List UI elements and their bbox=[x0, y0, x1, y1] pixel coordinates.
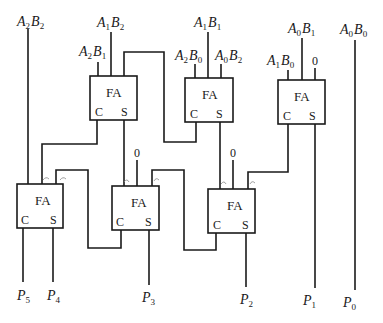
fa-bottom-middle: FA C S bbox=[112, 186, 159, 230]
input-label-a1b0: A1B0 bbox=[266, 53, 295, 70]
sum-port-label: S bbox=[242, 218, 249, 232]
pencil-mark bbox=[43, 178, 49, 180]
sum-port-label: S bbox=[121, 105, 128, 119]
input-label-a2b1: A2B1 bbox=[78, 44, 106, 61]
pencil-marks bbox=[43, 178, 255, 184]
output-label-p5: P5 bbox=[16, 288, 31, 305]
fa-bottom-left: FA C S bbox=[17, 184, 63, 228]
carry-port-label: C bbox=[21, 213, 29, 227]
fa-top-right: FA C S bbox=[278, 80, 325, 124]
input-label-a0b1: A0B1 bbox=[287, 21, 315, 38]
input-label-a1b1: A1B1 bbox=[193, 15, 221, 32]
carry-port-label: C bbox=[283, 109, 291, 123]
carry-port-label: C bbox=[95, 105, 103, 119]
carry-port-label: C bbox=[190, 107, 198, 121]
zero-input-bottom-middle: 0 bbox=[134, 146, 140, 160]
fa-top-left: FA C S bbox=[90, 76, 137, 120]
fa-label: FA bbox=[202, 87, 218, 102]
output-label-p3: P3 bbox=[141, 290, 156, 307]
input-label-a2b0: A2B0 bbox=[174, 48, 203, 65]
zero-input-bottom-right: 0 bbox=[230, 146, 236, 160]
wire-tr-carry-to-br bbox=[248, 124, 288, 189]
output-label-p2: P2 bbox=[239, 292, 253, 309]
pencil-mark bbox=[154, 179, 159, 181]
sum-port-label: S bbox=[216, 107, 223, 121]
pencil-mark bbox=[221, 182, 226, 184]
fa-label: FA bbox=[227, 198, 243, 213]
fa-label: FA bbox=[131, 195, 147, 210]
input-label-a1b2: A1B2 bbox=[96, 15, 124, 32]
fa-label: FA bbox=[35, 193, 51, 208]
carry-port-label: C bbox=[116, 215, 124, 229]
carry-port-label: C bbox=[213, 218, 221, 232]
sum-port-label: S bbox=[309, 109, 316, 123]
output-label-p4: P4 bbox=[46, 288, 61, 305]
sum-port-label: S bbox=[50, 213, 57, 227]
input-label-a0b2: A0B2 bbox=[214, 48, 242, 65]
fa-bottom-right: FA C S bbox=[208, 189, 255, 233]
output-label-p0: P0 bbox=[342, 295, 357, 312]
wire-br-carry-to-bm bbox=[152, 170, 216, 250]
sum-port-label: S bbox=[145, 215, 152, 229]
fa-top-middle: FA C S bbox=[185, 78, 233, 122]
array-multiplier-diagram: FA C S FA C S FA C S FA C S FA C S FA C … bbox=[0, 0, 383, 323]
input-label-a0b0: A0B0 bbox=[339, 22, 368, 39]
pencil-mark bbox=[250, 182, 255, 184]
fa-label: FA bbox=[294, 89, 310, 104]
wires bbox=[23, 29, 355, 290]
zero-input-top-right: 0 bbox=[312, 54, 318, 68]
input-label-a2b2: A2B2 bbox=[16, 14, 44, 31]
pencil-mark bbox=[60, 178, 66, 180]
fa-label: FA bbox=[106, 85, 122, 100]
output-label-p1: P1 bbox=[302, 293, 316, 310]
